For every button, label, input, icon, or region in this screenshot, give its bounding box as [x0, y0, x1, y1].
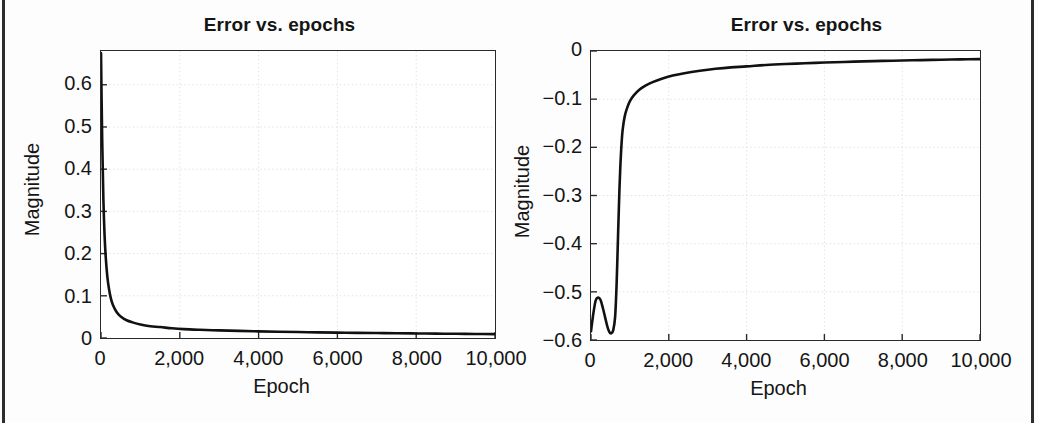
- plot-canvas-left: [101, 51, 495, 338]
- y-tick-right-0: 0: [494, 39, 582, 59]
- y-tick-right-6: −0.6: [494, 330, 582, 350]
- x-axis-label-left: Epoch: [0, 375, 541, 398]
- x-axis-label-right: Epoch: [519, 377, 1038, 400]
- y-tick-left-5: 0.5: [4, 116, 92, 136]
- chart-title-left: Error vs. epochs: [0, 14, 539, 36]
- x-tick-right-5: 10,000: [926, 350, 1036, 370]
- y-tick-left-3: 0.3: [4, 201, 92, 221]
- y-tick-left-0: 0: [4, 328, 92, 348]
- plot-area-left: [100, 50, 496, 339]
- y-tick-right-1: −0.1: [494, 88, 582, 108]
- figure-two-panel-error-plots: Error vs. epochs Magnitude Epoch 00.10.2…: [0, 0, 1038, 423]
- y-tick-left-4: 0.4: [4, 158, 92, 178]
- y-tick-right-4: −0.4: [494, 233, 582, 253]
- y-tick-left-1: 0.1: [4, 286, 92, 306]
- chart-title-right: Error vs. epochs: [519, 14, 1038, 36]
- chart-panel-right: Error vs. epochs Magnitude Epoch 0−0.1−0…: [519, 0, 1038, 423]
- y-tick-right-3: −0.3: [494, 185, 582, 205]
- y-tick-right-5: −0.5: [494, 282, 582, 302]
- y-tick-left-2: 0.2: [4, 243, 92, 263]
- chart-panel-left: Error vs. epochs Magnitude Epoch 00.10.2…: [0, 0, 519, 423]
- plot-canvas-right: [591, 51, 980, 340]
- y-tick-left-6: 0.6: [4, 73, 92, 93]
- plot-area-right: [590, 50, 981, 341]
- y-tick-right-2: −0.2: [494, 136, 582, 156]
- y-axis-label-left: Magnitude: [21, 130, 44, 250]
